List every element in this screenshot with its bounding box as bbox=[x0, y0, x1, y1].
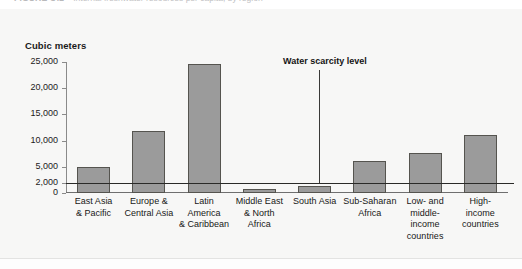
x-axis-category-labels: East Asia& PacificEurope &Central AsiaLa… bbox=[66, 196, 508, 256]
y-axis-tick: 20,000 bbox=[62, 88, 66, 89]
figure-number-label: FIGURE O.2 bbox=[14, 0, 64, 3]
bar bbox=[298, 186, 331, 193]
x-axis-category-label: Low- andmiddle-incomecountries bbox=[398, 196, 453, 242]
category-label-line: income bbox=[398, 219, 453, 231]
bar bbox=[243, 189, 276, 193]
x-axis-category-label: Middle East& NorthAfrica bbox=[232, 196, 287, 231]
figure-caption-strip: FIGURE O.2Internal freshwater resources … bbox=[0, 0, 522, 9]
y-axis-title: Cubic meters bbox=[25, 40, 86, 51]
water-scarcity-annotation-label: Water scarcity level bbox=[283, 56, 367, 66]
y-axis-tick-label: 0 bbox=[53, 187, 58, 197]
category-label-line: & Caribbean bbox=[177, 219, 232, 231]
y-axis-tick-label: 25,000 bbox=[30, 56, 58, 66]
category-label-line: South Asia bbox=[287, 196, 342, 208]
bar bbox=[77, 167, 110, 193]
y-axis-tick: 25,000 bbox=[62, 62, 66, 63]
category-label-line: countries bbox=[453, 219, 508, 231]
category-label-line: East Asia bbox=[66, 196, 121, 208]
x-axis-category-label: LatinAmerica& Caribbean bbox=[177, 196, 232, 231]
category-label-line: & North bbox=[232, 208, 287, 220]
bar bbox=[132, 131, 165, 193]
y-axis-tick: 15,000 bbox=[62, 114, 66, 115]
category-label-line: Central Asia bbox=[121, 208, 176, 220]
category-label-line: Europe & bbox=[121, 196, 176, 208]
y-axis-tick: 10,000 bbox=[62, 141, 66, 142]
x-axis-category-label: East Asia& Pacific bbox=[66, 196, 121, 219]
y-axis-line bbox=[66, 62, 67, 193]
figure-caption: FIGURE O.2Internal freshwater resources … bbox=[14, 0, 263, 3]
x-axis-category-label: Europe &Central Asia bbox=[121, 196, 176, 219]
category-label-line: High- bbox=[453, 196, 508, 208]
water-scarcity-leader-line bbox=[319, 70, 320, 183]
category-label-line: & Pacific bbox=[66, 208, 121, 220]
category-label-line: Africa bbox=[342, 208, 397, 220]
category-label-line: America bbox=[177, 208, 232, 220]
bar bbox=[409, 153, 442, 193]
category-label-line: Africa bbox=[232, 219, 287, 231]
bar bbox=[188, 64, 221, 193]
y-axis-tick-label: 15,000 bbox=[30, 108, 58, 118]
category-label-line: Low- and bbox=[398, 196, 453, 208]
water-scarcity-reference-line bbox=[66, 183, 514, 184]
category-label-line: Latin bbox=[177, 196, 232, 208]
y-axis-tick-label: 2,000 bbox=[35, 177, 58, 187]
category-label-line: middle- bbox=[398, 208, 453, 220]
y-axis-tick: 5,000 bbox=[62, 167, 66, 168]
category-label-line: countries bbox=[398, 231, 453, 243]
figure-container: FIGURE O.2Internal freshwater resources … bbox=[0, 0, 522, 269]
y-axis-tick-label: 20,000 bbox=[30, 82, 58, 92]
y-axis-tick-label: 10,000 bbox=[30, 135, 58, 145]
x-axis-category-label: High-incomecountries bbox=[453, 196, 508, 231]
category-label-line: Sub-Saharan bbox=[342, 196, 397, 208]
category-label-line: income bbox=[453, 208, 508, 220]
figure-caption-text: Internal freshwater resources per capita… bbox=[73, 0, 262, 3]
bar bbox=[464, 135, 497, 193]
y-axis-tick-label: 5,000 bbox=[35, 161, 58, 171]
bar bbox=[353, 161, 386, 193]
x-axis-category-label: Sub-SaharanAfrica bbox=[342, 196, 397, 219]
x-axis-category-label: South Asia bbox=[287, 196, 342, 208]
y-axis-tick: 0 bbox=[62, 193, 66, 194]
category-label-line: Middle East bbox=[232, 196, 287, 208]
plot-area: 02,0005,00010,00015,00020,00025,000Water… bbox=[66, 62, 508, 193]
sheet-footer-space bbox=[0, 259, 522, 269]
